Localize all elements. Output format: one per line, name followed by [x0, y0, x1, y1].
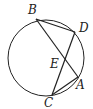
label-d: D	[78, 21, 89, 35]
label-c: C	[44, 96, 53, 109]
geometry-figure: B D E A C	[0, 0, 93, 109]
label-b: B	[27, 3, 37, 17]
label-a: A	[75, 78, 85, 92]
label-e: E	[49, 57, 59, 71]
